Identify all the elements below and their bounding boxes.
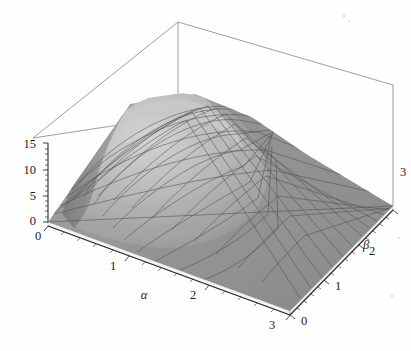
beta-tick-label-3: 3 — [400, 165, 406, 179]
beta-tick-label-2: 2 — [369, 244, 375, 258]
surface-mesh — [0, 0, 411, 351]
alpha-tick-label-1: 1 — [110, 259, 116, 273]
z-tick-labels: 15 10 5 0 — [24, 137, 37, 228]
z-tick-label-10: 10 — [24, 163, 37, 177]
alpha-axis-label: α — [141, 288, 148, 302]
alpha-tick-label-2: 2 — [190, 288, 196, 302]
beta-tick-label-1: 1 — [335, 279, 341, 293]
box-top-edge-right — [178, 22, 393, 85]
beta-tick-label-0: 0 — [301, 314, 307, 328]
z-axis — [43, 143, 48, 222]
z-tick-label-5: 5 — [30, 189, 36, 203]
z-tick-label-15: 15 — [24, 137, 37, 151]
beta-axis-label: β — [362, 238, 370, 252]
alpha-tick-label-3: 3 — [269, 318, 275, 332]
z-tick-label-0: 0 — [30, 214, 36, 228]
alpha-tick-label-0: 0 — [35, 229, 41, 243]
surface-plot-figure: 15 10 5 0 0 1 2 3 0 1 2 3 α β — [0, 0, 411, 351]
plot-canvas: 15 10 5 0 0 1 2 3 0 1 2 3 α β — [0, 0, 411, 351]
